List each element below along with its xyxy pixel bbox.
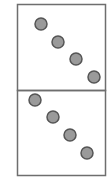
dot (52, 36, 64, 48)
dot (81, 147, 93, 159)
dot (47, 111, 59, 123)
diagram-canvas (0, 0, 108, 182)
dot (70, 53, 82, 65)
dot (35, 18, 47, 30)
dot (64, 129, 76, 141)
bottom-panel (18, 91, 106, 176)
top-panel (18, 5, 106, 91)
dot (29, 94, 41, 106)
dot (88, 71, 100, 83)
